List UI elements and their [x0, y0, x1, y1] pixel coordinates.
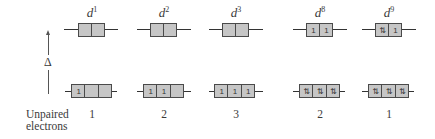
orbital: 1 — [144, 85, 157, 97]
t2g-orbitals-d1: 1 — [71, 84, 112, 98]
orbital: ⇅ — [396, 85, 408, 97]
orbital: ⇅ — [369, 85, 382, 97]
orbital: 1 — [320, 24, 332, 36]
config-label-d2: d2 — [144, 3, 184, 19]
orbital: 1 — [389, 24, 401, 36]
orbital: 1 — [242, 85, 254, 97]
row-label-line2: electrons — [26, 120, 69, 132]
orbital — [236, 24, 248, 36]
row-label-line1: Unpaired — [26, 108, 69, 120]
eg-orbitals-d2 — [150, 23, 177, 37]
orbital — [85, 85, 98, 97]
eg-orbitals-d3 — [222, 23, 249, 37]
arrow-shaft-lower — [48, 70, 49, 94]
orbital: 1 — [215, 85, 228, 97]
config-label-d1: d1 — [72, 3, 112, 19]
delta-symbol: Δ — [44, 55, 52, 70]
orbital: ⇅ — [313, 85, 326, 97]
orbital: ⇅ — [382, 85, 395, 97]
config-label-d8: d8 — [300, 3, 340, 19]
t2g-orbitals-d2: 1 1 — [143, 84, 184, 98]
unpaired-count-d9: 1 — [374, 108, 404, 120]
eg-orbitals-d1 — [78, 23, 105, 37]
orbital: 1 — [157, 85, 170, 97]
t2g-orbitals-d3: 1 1 1 — [214, 84, 255, 98]
unpaired-count-d8: 2 — [305, 108, 335, 120]
eg-orbitals-d9: ⇅ 1 — [375, 23, 402, 37]
unpaired-electrons-label: Unpaired electrons — [26, 108, 69, 132]
orbital: 1 — [228, 85, 241, 97]
t2g-orbitals-d9: ⇅ ⇅ ⇅ — [368, 84, 409, 98]
orbital: ⇅ — [327, 85, 339, 97]
orbital — [171, 85, 183, 97]
orbital — [92, 24, 104, 36]
t2g-orbitals-d8: ⇅ ⇅ ⇅ — [299, 84, 340, 98]
orbital: ⇅ — [376, 24, 389, 36]
arrow-shaft — [48, 34, 49, 55]
orbital — [223, 24, 236, 36]
orbital — [164, 24, 176, 36]
unpaired-count-d2: 2 — [149, 108, 179, 120]
unpaired-count-d1: 1 — [77, 108, 107, 120]
config-label-d3: d3 — [216, 3, 256, 19]
eg-orbitals-d8: 1 1 — [306, 23, 333, 37]
orbital — [151, 24, 164, 36]
orbital: ⇅ — [300, 85, 313, 97]
orbital: 1 — [307, 24, 320, 36]
orbital — [99, 85, 111, 97]
config-label-d9: d9 — [369, 3, 409, 19]
orbital — [79, 24, 92, 36]
orbital: 1 — [72, 85, 85, 97]
unpaired-count-d3: 3 — [221, 108, 251, 120]
